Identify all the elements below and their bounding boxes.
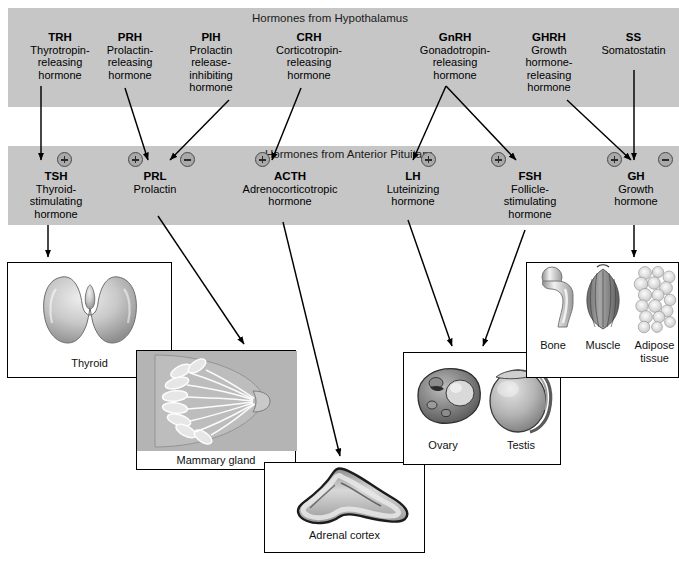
- arrow-ghrh-to-gh: [567, 100, 631, 160]
- target-panel-adrenal-cortex: Adrenal cortex: [264, 462, 425, 553]
- panel-caption: Adrenal cortex: [265, 529, 424, 542]
- endocrine-axis-diagram: Hormones from Hypothalamus Hormones from…: [0, 0, 679, 561]
- arrow-pih-to-prl: [170, 100, 229, 160]
- target-panel-bone-muscle-adipose: Bone Muscle Adipose tissue: [526, 262, 679, 378]
- adrenal-cortex-illustration: [265, 463, 426, 533]
- arrow-crh-to-acth: [272, 88, 301, 160]
- thyroid-illustration: [8, 263, 173, 361]
- panel-caption-bone: Bone: [529, 339, 577, 352]
- panel-caption-testis: Testis: [482, 439, 560, 452]
- bone-muscle-adipose-illustration: [527, 263, 679, 341]
- arrow-fsh-to-gonad: [483, 230, 525, 346]
- arrow-gnrh-to-lh: [413, 86, 446, 160]
- panel-caption-ovary: Ovary: [404, 439, 482, 452]
- panel-caption-muscle: Muscle: [577, 339, 629, 352]
- panel-caption-adipose: Adipose tissue: [629, 339, 679, 364]
- arrow-lh-to-gonad: [408, 220, 452, 346]
- mammary-gland-illustration: [137, 351, 297, 451]
- arrow-gnrh-to-fsh: [446, 86, 516, 160]
- arrow-prh-to-prl: [125, 88, 148, 160]
- target-panel-mammary-gland: Mammary gland: [136, 350, 296, 470]
